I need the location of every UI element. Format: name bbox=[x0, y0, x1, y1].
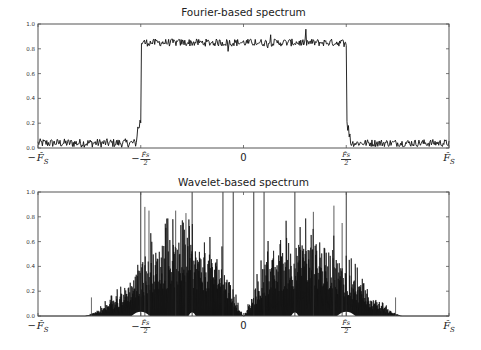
y-tick-label: 0.0 bbox=[15, 145, 35, 151]
chart-fourier bbox=[38, 24, 449, 148]
axes-frame bbox=[38, 192, 449, 316]
y-tick-label: 0.2 bbox=[15, 288, 35, 294]
y-tick-label: 0.4 bbox=[15, 95, 35, 101]
chart-wavelet bbox=[38, 192, 449, 316]
x-tick-label: −F̂S bbox=[27, 152, 48, 166]
axes-frame bbox=[38, 24, 449, 148]
y-tick-label: 1.0 bbox=[15, 189, 35, 195]
y-tick-label: 0.8 bbox=[15, 46, 35, 52]
figure: Fourier-based spectrum0.00.20.40.60.81.0… bbox=[0, 0, 481, 350]
y-tick-label: 0.4 bbox=[15, 263, 35, 269]
y-tick-label: 0.0 bbox=[15, 313, 35, 319]
x-tick-label: F̂S bbox=[443, 320, 455, 334]
x-tick-label: F̂S bbox=[443, 152, 455, 166]
x-tick-label: −F̂s2 bbox=[131, 320, 150, 335]
x-tick-label: 0 bbox=[240, 152, 246, 163]
y-tick-label: 0.6 bbox=[15, 239, 35, 245]
y-tick-label: 0.8 bbox=[15, 214, 35, 220]
y-tick-label: 0.6 bbox=[15, 71, 35, 77]
x-tick-label: −F̂s2 bbox=[131, 152, 150, 167]
spectrum-bars bbox=[38, 219, 449, 317]
chart-title: Fourier-based spectrum bbox=[181, 6, 306, 18]
x-tick-label: −F̂S bbox=[27, 320, 48, 334]
y-tick-label: 1.0 bbox=[15, 21, 35, 27]
chart-title: Wavelet-based spectrum bbox=[178, 176, 309, 188]
x-tick-label: 0 bbox=[240, 320, 246, 331]
plot-canvas bbox=[0, 0, 481, 350]
x-tick-label: F̂s2 bbox=[341, 152, 351, 167]
x-tick-label: F̂s2 bbox=[341, 320, 351, 335]
y-tick-label: 0.2 bbox=[15, 120, 35, 126]
spectrum-line bbox=[38, 29, 449, 147]
